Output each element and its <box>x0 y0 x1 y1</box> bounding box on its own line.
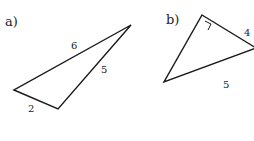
side-a-bottom-label: 2 <box>28 104 34 114</box>
side-b-top-right-label: 4 <box>244 28 250 38</box>
figure-b-label: b) <box>166 13 179 26</box>
triangle-a <box>14 25 131 109</box>
side-a-right-label: 5 <box>101 65 107 75</box>
right-angle-marker <box>205 21 211 30</box>
triangles-diagram <box>0 0 254 141</box>
figure-a-label: a) <box>5 15 18 28</box>
side-a-top-label: 6 <box>71 41 77 51</box>
side-b-bottom-label: 5 <box>223 80 229 90</box>
